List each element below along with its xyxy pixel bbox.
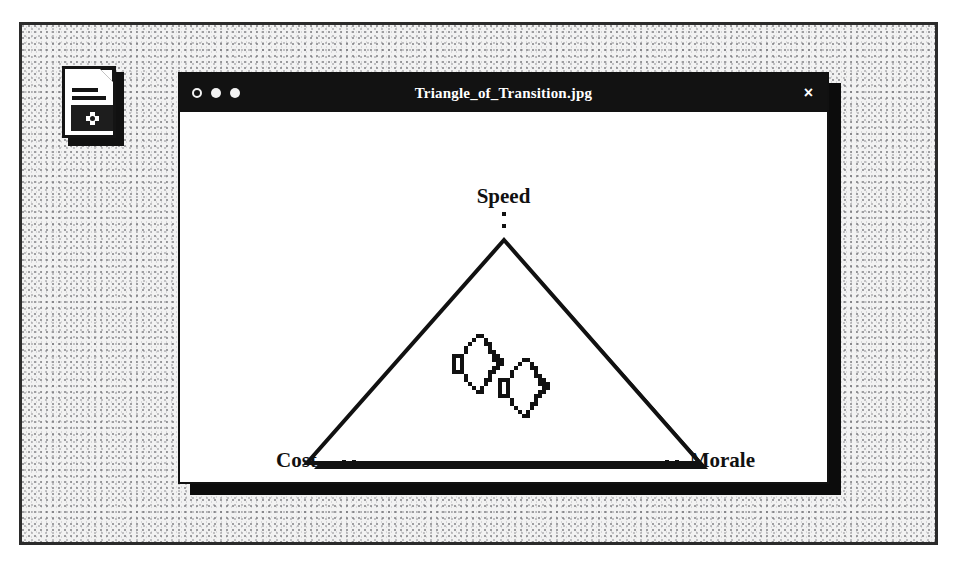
vertex-label-speed: Speed — [180, 184, 827, 209]
window-dot-filled-1-icon[interactable] — [211, 88, 221, 98]
image-canvas: Speed Cost Morale — [180, 112, 827, 482]
document-icon-page — [62, 66, 116, 138]
document-file-icon[interactable] — [62, 66, 124, 146]
triangle-svg — [180, 112, 827, 482]
leader-dots-speed — [502, 212, 506, 238]
document-icon-preview-panel — [71, 105, 113, 131]
poster-frame: Triangle_of_Transition.jpg × — [0, 0, 967, 562]
window-titlebar: Triangle_of_Transition.jpg × — [180, 74, 827, 112]
gear-icon — [86, 112, 99, 125]
window-dot-hollow-icon[interactable] — [192, 88, 202, 98]
leader-dots-cost — [342, 460, 364, 465]
vertex-label-cost: Cost — [276, 448, 317, 473]
window-dot-filled-2-icon[interactable] — [230, 88, 240, 98]
vertex-label-morale: Morale — [690, 448, 755, 473]
document-icon-text-line — [72, 96, 106, 100]
window-title: Triangle_of_Transition.jpg — [180, 74, 827, 112]
document-icon-fold-inner — [101, 70, 112, 81]
pixel-sparkle-left-icon — [452, 334, 504, 394]
image-viewer-window: Triangle_of_Transition.jpg × — [178, 72, 829, 484]
leader-dots-morale — [665, 460, 687, 465]
close-icon[interactable]: × — [804, 85, 813, 101]
document-icon-text-line — [72, 88, 98, 92]
window-traffic-lights — [192, 88, 240, 98]
pixel-sparkle-right-icon — [498, 358, 550, 418]
constraint-triangle-diagram — [180, 112, 827, 482]
